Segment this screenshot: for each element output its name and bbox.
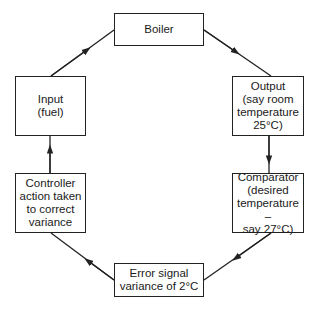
- boiler-label: Boiler: [144, 23, 173, 36]
- control-loop-diagram: Boiler Output (say room temperature 25°C…: [0, 0, 317, 314]
- input-label: Input (fuel): [37, 93, 63, 119]
- comparator-label: Comparator (desired temperature – say 27…: [235, 171, 301, 236]
- output-label: Output (say room temperature 25°C): [237, 80, 299, 132]
- output-box: Output (say room temperature 25°C): [232, 76, 304, 136]
- boiler-box: Boiler: [114, 13, 204, 46]
- error-signal-box: Error signal variance of 2°C: [114, 263, 204, 297]
- error-signal-label: Error signal variance of 2°C: [120, 267, 199, 293]
- comparator-box: Comparator (desired temperature – say 27…: [232, 173, 304, 233]
- controller-box: Controller action taken to correct varia…: [15, 173, 86, 233]
- input-box: Input (fuel): [15, 76, 86, 136]
- controller-label: Controller action taken to correct varia…: [19, 177, 81, 229]
